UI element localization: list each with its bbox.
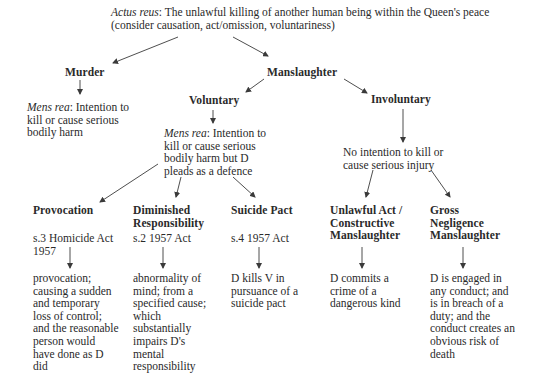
- suicide-pact-heading: Suicide Pact: [231, 204, 293, 217]
- actus-reus-label: Actus reus: [111, 6, 159, 18]
- actus-reus-box: Actus reus: The unlawful killing of anot…: [111, 6, 489, 31]
- suicide-pact-statute: s.4 1957 Act: [231, 232, 289, 245]
- involuntary-condition: No intention to kill or cause serious in…: [343, 146, 443, 171]
- voluntary-heading: Voluntary: [189, 94, 239, 107]
- actus-reus-definition: : The unlawful killing of another human …: [159, 6, 489, 18]
- manslaughter-heading: Manslaughter: [267, 66, 337, 79]
- actus-reus-considerations: (consider causation, act/omission, volun…: [111, 19, 489, 32]
- murder-mens-rea: Mens rea: Intention to kill or cause ser…: [27, 101, 129, 139]
- diminished-responsibility-heading: Diminished Responsibility: [133, 204, 204, 229]
- provocation-heading: Provocation: [33, 204, 93, 217]
- mens-rea-label: Mens rea: [164, 127, 207, 139]
- gross-negligence-heading: Gross Negligence Manslaughter: [430, 204, 500, 242]
- gross-negligence-description: D is engaged in any conduct; and is in b…: [430, 272, 515, 360]
- unlawful-act-description: D commits a crime of a dangerous kind: [330, 272, 401, 310]
- provocation-description: provocation; causing a sudden and tempor…: [33, 272, 119, 373]
- unlawful-act-heading: Unlawful Act / Constructive Manslaughter: [330, 204, 402, 242]
- diminished-responsibility-statute: s.2 1957 Act: [133, 232, 191, 245]
- diminished-responsibility-description: abnormality of mind; from a specified ca…: [133, 272, 206, 373]
- suicide-pact-description: D kills V in pursuance of a suicide pact: [231, 272, 298, 310]
- involuntary-heading: Involuntary: [371, 93, 431, 106]
- provocation-statute: s.3 Homicide Act 1957: [33, 232, 113, 257]
- mens-rea-label: Mens rea: [27, 101, 70, 113]
- murder-heading: Murder: [65, 66, 105, 79]
- voluntary-mens-rea: Mens rea: Intention to kill or cause ser…: [164, 127, 266, 177]
